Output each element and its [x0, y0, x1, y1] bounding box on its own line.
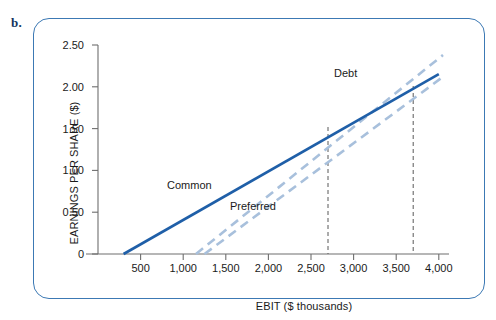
x-tick-label: 2,500: [288, 262, 334, 274]
x-tick-label: 3,000: [331, 262, 377, 274]
x-tick-marks: [141, 254, 439, 260]
chart-canvas: [34, 19, 486, 300]
y-tick-label: 2.00: [44, 81, 84, 93]
y-tick-label: 2.50: [44, 39, 84, 51]
x-tick-label: 3,500: [373, 262, 419, 274]
series-label-preferred: Preferred: [230, 200, 276, 212]
figure-root: b.: [0, 0, 496, 320]
x-axis-title: EBIT ($ thousands): [214, 300, 394, 312]
series-label-debt: Debt: [334, 67, 357, 79]
figure-frame: 2.50 2.00 1.50 1.00 0.50 0 500 1,000 1,5…: [33, 18, 485, 299]
x-tick-label: 1,000: [160, 262, 206, 274]
x-tick-label: 4,000: [416, 262, 462, 274]
x-tick-label: 500: [118, 262, 164, 274]
panel-letter: b.: [11, 15, 22, 31]
x-tick-label: 2,000: [245, 262, 291, 274]
series-line-preferred: [205, 77, 444, 254]
series-line-common: [124, 74, 439, 254]
series-line-debt: [196, 55, 443, 254]
y-axis-title: EARNINGS PER SHARE ($): [68, 93, 80, 253]
x-tick-label: 1,500: [203, 262, 249, 274]
series-label-common: Common: [167, 179, 212, 191]
y-tick-marks: [92, 45, 98, 254]
